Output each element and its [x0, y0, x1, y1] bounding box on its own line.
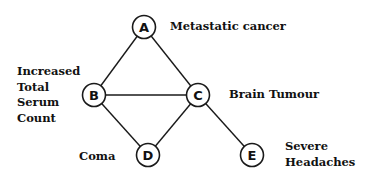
label-line: Severe	[285, 139, 355, 155]
label-coma: Coma	[79, 149, 115, 165]
label-line: Serum	[17, 95, 80, 111]
node-d: D	[137, 144, 160, 167]
svg-text:B: B	[89, 88, 99, 103]
svg-text:A: A	[139, 20, 149, 35]
edge-a-b	[94, 27, 144, 95]
label-line: Count	[17, 111, 80, 127]
svg-text:E: E	[248, 148, 257, 163]
label-increased-total-serum-count: Increased Total Serum Count	[17, 64, 80, 126]
label-line: Total	[17, 80, 80, 96]
label-line: Increased	[17, 64, 80, 80]
node-a: A	[133, 16, 156, 39]
node-e: E	[241, 144, 264, 167]
label-brain-tumour: Brain Tumour	[229, 87, 319, 103]
edge-a-c	[144, 27, 198, 95]
label-metastatic-cancer: Metastatic cancer	[170, 19, 286, 35]
svg-text:D: D	[143, 148, 154, 163]
label-line: Headaches	[285, 155, 355, 171]
label-severe-headaches: Severe Headaches	[285, 139, 355, 170]
node-b: B	[83, 84, 106, 107]
node-c: C	[187, 84, 210, 107]
svg-text:C: C	[193, 88, 203, 103]
